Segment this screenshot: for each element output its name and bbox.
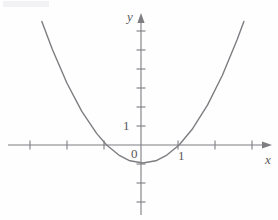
x-axis-label: x (265, 153, 271, 166)
x-axis-arrowhead (262, 141, 272, 148)
parabola-curve (42, 22, 244, 164)
figure-container: y x 0 1 1 (0, 0, 278, 220)
origin-label: 0 (131, 147, 138, 160)
parabola-plot (0, 0, 278, 220)
y-axis-label: y (127, 10, 133, 23)
x-tick-label-one: 1 (178, 149, 185, 162)
y-tick-label-one: 1 (123, 119, 130, 132)
y-axis-arrowhead (137, 13, 144, 23)
